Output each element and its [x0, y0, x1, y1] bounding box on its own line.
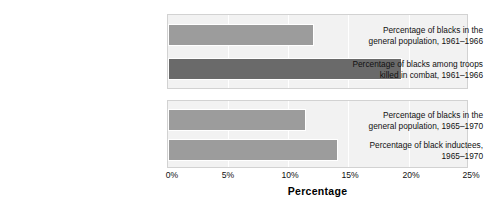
category-label-general-population-1961-1966: Percentage of blacks in the general popu…	[321, 25, 487, 46]
category-label-troops-killed-1961-1966: Percentage of blacks among troops killed…	[321, 59, 487, 80]
bar-general-population-1961-1966[interactable]	[168, 24, 314, 46]
x-tick-10: 10%	[281, 170, 298, 181]
bar-black-inductees-1965-1970[interactable]	[168, 139, 338, 161]
x-tick-0: 0%	[166, 170, 178, 181]
x-axis-title: Percentage	[167, 185, 468, 197]
x-axis-tick-labels: 0% 5% 10% 15% 20% 25%	[0, 170, 487, 184]
category-label-general-population-1965-1970: Percentage of blacks in the general popu…	[321, 110, 487, 131]
x-tick-15: 15%	[341, 170, 358, 181]
x-tick-5: 5%	[222, 170, 234, 181]
bar-chart-figure: Percentage of blacks in the general popu…	[0, 0, 487, 209]
bar-general-population-1965-1970[interactable]	[168, 109, 306, 131]
category-label-black-inductees-1965-1970: Percentage of black inductees, 1965–1970	[321, 140, 487, 161]
x-tick-20: 20%	[402, 170, 419, 181]
x-tick-25: 25%	[462, 170, 479, 181]
